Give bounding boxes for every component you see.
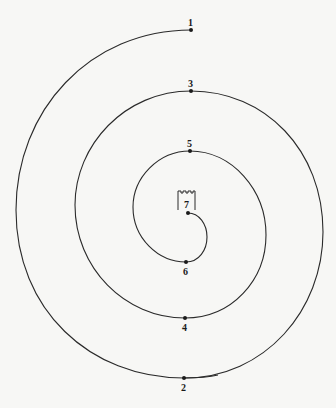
- point-label-5: 5: [187, 138, 192, 149]
- point-7: [186, 211, 190, 215]
- point-4: [183, 316, 187, 320]
- point-1: [189, 28, 193, 32]
- point-label-3: 3: [188, 78, 193, 89]
- spiral-arc-4-5: [185, 151, 266, 318]
- point-label-6: 6: [183, 266, 188, 277]
- point-6: [184, 260, 188, 264]
- spiral-arc-5-6: [133, 151, 190, 262]
- point-label-4: 4: [182, 322, 187, 333]
- point-label-1: 1: [188, 17, 193, 28]
- point-label-2: 2: [181, 382, 186, 393]
- spiral-arc-2-3: [184, 91, 323, 378]
- spiral-diagram: 1 2 3 4 5 6 7: [0, 0, 336, 408]
- point-5: [188, 149, 192, 153]
- point-label-7: 7: [184, 199, 189, 210]
- spiral-arc-6-7: [186, 213, 207, 262]
- point-3: [189, 89, 193, 93]
- point-2: [182, 376, 186, 380]
